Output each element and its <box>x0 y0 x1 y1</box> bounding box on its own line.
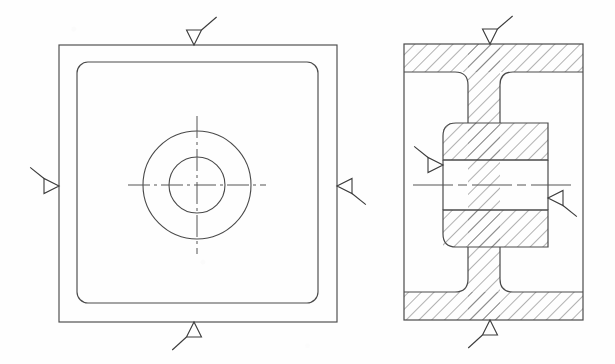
front-view <box>30 17 366 350</box>
surface-finish-symbol-section-top[interactable] <box>483 16 513 44</box>
section-top-flange-right-underside <box>500 72 583 123</box>
section-hatching <box>400 40 590 328</box>
front-view-outer-square <box>59 45 337 322</box>
surface-finish-symbol-front-left[interactable] <box>30 167 59 193</box>
section-bottom-flange-left-topside <box>404 247 468 292</box>
section-bottom-flange-right-topside <box>500 247 583 292</box>
surface-finish-symbol-section-bottom[interactable] <box>468 320 497 348</box>
surface-finish-symbol-front-top[interactable] <box>187 17 217 45</box>
surface-finish-symbol-section-left[interactable] <box>414 146 443 172</box>
section-view <box>400 16 590 348</box>
drawing-sheet <box>0 0 615 364</box>
surface-finish-symbol-front-bottom[interactable] <box>172 322 201 350</box>
surface-finish-symbol-section-right[interactable] <box>548 191 577 217</box>
surface-finish-symbol-front-right[interactable] <box>337 179 366 205</box>
section-top-flange-left-underside <box>404 72 468 123</box>
technical-drawing-canvas <box>0 0 615 364</box>
